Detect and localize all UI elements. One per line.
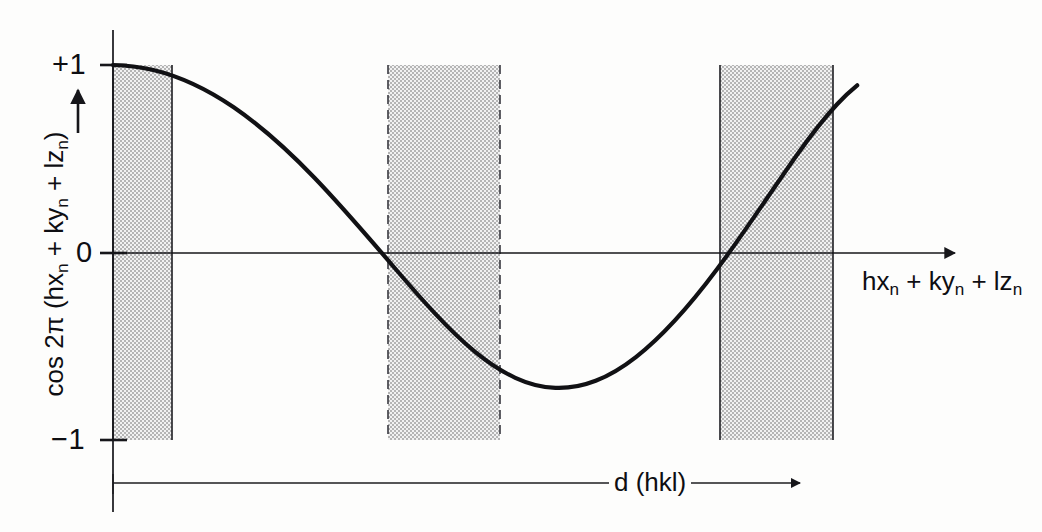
y-tick-label-zero: 0: [76, 238, 92, 267]
figure-canvas: +1 0 −1 cos 2π (hxn + kyn + lzn) hxn + k…: [0, 0, 1042, 532]
x-axis-title-mid-2: + lz: [964, 266, 1012, 296]
x-axis-title: hxn + kyn + lzn: [862, 268, 1022, 298]
d-spacing-label: d (hkl): [609, 469, 691, 495]
y-axis-title-prefix: cos 2π (hx: [39, 273, 69, 396]
y-axis-title-sub-2: n: [52, 198, 72, 208]
y-axis-title-sub-3: n: [52, 140, 72, 150]
y-axis-title-mid-1: + ky: [39, 208, 69, 264]
d-spacing-measure: [113, 474, 800, 494]
y-axis-title-mid-2: + lz: [39, 150, 69, 198]
y-axis-title-sub-1: n: [52, 263, 72, 273]
x-axis-title-sub-3: n: [1013, 279, 1023, 299]
x-axis-title-sub-2: n: [955, 279, 965, 299]
y-axis-title-suffix: ): [39, 132, 69, 141]
y-axis-title: cos 2π (hxn + kyn + lzn): [41, 54, 71, 474]
x-axis-title-mid-1: + ky: [899, 266, 955, 296]
x-axis-title-prefix: hx: [862, 266, 889, 296]
x-axis-title-sub-1: n: [889, 279, 899, 299]
